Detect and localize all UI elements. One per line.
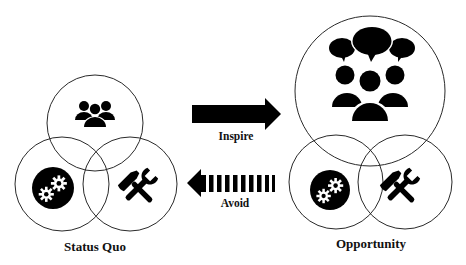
opportunity-label: Opportunity <box>336 236 407 251</box>
group-discussion-icon <box>329 26 415 122</box>
status-quo-label: Status Quo <box>64 239 126 254</box>
tools-icon <box>379 167 421 211</box>
inspire-arrow: Inspire <box>192 98 281 143</box>
speech-bubble-center-icon <box>351 26 393 62</box>
tools-icon <box>117 167 159 211</box>
opportunity-group: Opportunity <box>289 16 452 251</box>
avoid-arrow: Avoid <box>187 169 275 209</box>
avoid-label: Avoid <box>221 197 250 209</box>
avoid-arrow-head <box>187 169 206 197</box>
gears-icon <box>310 170 350 210</box>
inspire-label: Inspire <box>219 130 254 143</box>
avoid-arrow-dashes <box>209 175 275 192</box>
gears-icon <box>32 167 74 209</box>
inspire-arrow-shape <box>192 98 281 130</box>
diagram-canvas: Status Quo Inspire Avoid <box>0 0 466 265</box>
status-quo-group: Status Quo <box>15 75 177 254</box>
group-icon <box>75 101 115 128</box>
